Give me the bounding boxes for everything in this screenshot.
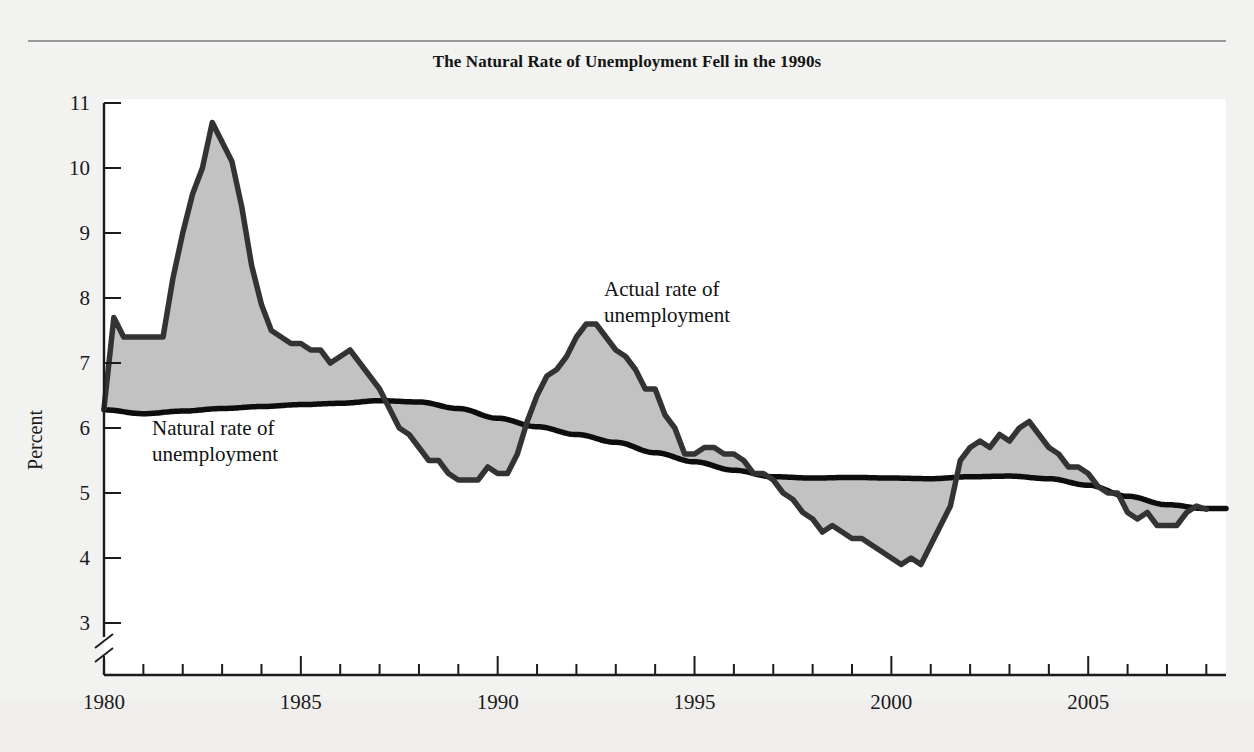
y-axis-tick-labels: 34567891011 bbox=[69, 91, 91, 635]
x-axis-tick-label: 1985 bbox=[280, 690, 322, 714]
y-axis-tick-label: 4 bbox=[80, 546, 91, 570]
y-axis-tick-label: 10 bbox=[69, 156, 90, 180]
y-axis-tick-label: 7 bbox=[80, 351, 91, 375]
y-axis-tick-label: 6 bbox=[80, 416, 91, 440]
y-axis-title: Percent bbox=[24, 410, 46, 470]
actual-rate-annotation-line2: unemployment bbox=[604, 303, 730, 327]
y-axis-tick-label: 8 bbox=[80, 286, 91, 310]
natural-rate-annotation-line2: unemployment bbox=[152, 442, 278, 466]
x-axis-tick-label: 2005 bbox=[1067, 690, 1109, 714]
x-axis-tick-label: 2000 bbox=[870, 690, 912, 714]
figure-container: The Natural Rate of Unemployment Fell in… bbox=[0, 0, 1254, 752]
y-axis-tick-label: 5 bbox=[80, 481, 91, 505]
actual-rate-annotation-line1: Actual rate of bbox=[604, 277, 719, 301]
x-axis-tick-label: 1990 bbox=[477, 690, 519, 714]
figure-inner: The Natural Rate of Unemployment Fell in… bbox=[0, 0, 1254, 752]
y-axis-tick-label: 3 bbox=[80, 611, 91, 635]
natural-rate-annotation-line1: Natural rate of bbox=[152, 416, 274, 440]
unemployment-area-chart: 34567891011 198019851990199520002005 Per… bbox=[0, 0, 1254, 752]
x-axis-tick-label: 1995 bbox=[674, 690, 716, 714]
y-axis-tick-label: 11 bbox=[70, 91, 90, 115]
y-axis-tick-label: 9 bbox=[80, 221, 91, 245]
x-axis-tick-labels: 198019851990199520002005 bbox=[83, 690, 1109, 714]
x-axis-tick-label: 1980 bbox=[83, 690, 125, 714]
